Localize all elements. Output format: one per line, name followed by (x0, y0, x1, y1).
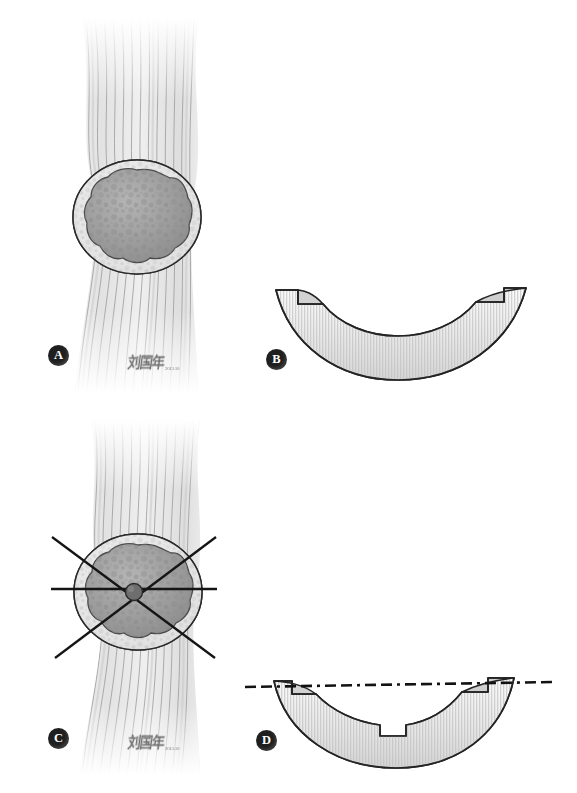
panel-label-d: D (256, 730, 277, 751)
panel-b-svg (268, 258, 568, 393)
panel-d-illustration (230, 640, 570, 775)
artist-signature-c: 刘国年2013.10 (128, 732, 179, 751)
signature-name-a: 刘国年 (126, 351, 165, 373)
figure-root: A B C D 刘国年2013.10 刘国年2013.10 (0, 0, 577, 793)
artist-signature-a: 刘国年2013.10 (128, 352, 179, 371)
crescent-striations-d (230, 640, 570, 775)
crescent-specimen-b (268, 258, 568, 393)
signature-date-c: 2013.10 (165, 746, 179, 751)
panel-d-svg (230, 640, 570, 775)
center-point-highlight (128, 586, 134, 592)
crescent-specimen-d (230, 640, 570, 775)
panel-label-a: A (48, 345, 69, 366)
panel-b-illustration (268, 258, 568, 393)
panel-label-c: C (48, 728, 69, 749)
center-point-marker (126, 584, 143, 601)
crescent-striations-b (268, 258, 568, 393)
panel-a-illustration (20, 18, 270, 393)
panel-a-svg (20, 18, 270, 393)
signature-date-a: 2013.10 (165, 366, 179, 371)
panel-label-b: B (266, 349, 287, 370)
signature-name-c: 刘国年 (126, 731, 165, 753)
